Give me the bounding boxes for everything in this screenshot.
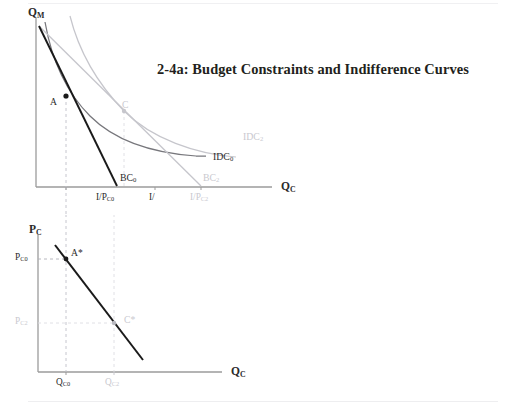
panel-b-x-axis-label-sub: C	[240, 370, 246, 379]
panel-a-xtick-label-0: I/PC0	[96, 193, 114, 203]
curve-idc2	[70, 16, 236, 157]
panel-b-y-axis-label: PC	[29, 224, 42, 237]
panel-a-y-axis-label-main: Q	[28, 6, 37, 18]
panel-b-ytick-label-0-sub: C0	[20, 255, 27, 262]
panel-a-point-a-label: A	[50, 97, 57, 107]
panel-a-xtick-label-0-sub: C0	[107, 195, 114, 202]
panel-a-point-c-label: C	[122, 100, 128, 110]
panel-a-y-axis-label-sub: M	[37, 11, 44, 20]
panel-b-xtick-label-2-main: Q	[105, 377, 112, 387]
curve-label-bc2: BC2	[203, 173, 219, 184]
curve-label-idc2-sub: 2	[260, 135, 263, 142]
panel-a-title: 2-4a: Budget Constraints and Indifferenc…	[157, 61, 469, 78]
chart-panel-demand: 2-4b: Demand for Chocolate PC QC PC0 PC2…	[0, 215, 515, 411]
panel-a-x-axis-label: QC	[281, 181, 296, 194]
curve-label-bc0: BC0	[120, 173, 136, 184]
curve-label-idc2-main: IDC	[243, 131, 260, 142]
panel-b-point-a-star-label: A*	[71, 248, 83, 258]
curve-label-idc2: IDC2	[243, 132, 263, 143]
panel-b-xtick-label-0: QC0	[56, 378, 70, 388]
panel-a-xtick-label-1: I/	[149, 193, 155, 202]
panel-a-plot	[0, 0, 515, 215]
curve-demand	[55, 245, 143, 360]
curve-label-idc0-main: IDC	[213, 151, 230, 162]
panel-a-xtick-label-2: I/PC2	[190, 193, 208, 203]
panel-a-y-axis-label: QM	[28, 7, 44, 20]
panel-b-y-axis-label-main: P	[29, 223, 36, 235]
panel-b-point-c-star-label: C*	[124, 315, 135, 325]
panel-a-x-axis-label-sub: C	[290, 185, 296, 194]
point-a-star-marker	[64, 257, 69, 262]
point-c-star-marker	[112, 321, 116, 325]
panel-b-y-axis-label-sub: C	[36, 228, 42, 237]
curve-label-bc2-main: BC	[203, 172, 216, 183]
panel-b-ytick-label-0: PC0	[15, 253, 28, 263]
curve-label-idc0-sub: 0	[230, 155, 233, 162]
point-a-marker	[63, 93, 68, 98]
panel-a-xtick-label-2-main: I/P	[190, 192, 201, 202]
panel-b-xtick-label-2-sub: C2	[112, 380, 119, 387]
curve-label-idc0: IDC0	[213, 152, 233, 163]
curve-label-bc2-sub: 2	[216, 176, 219, 183]
panel-b-x-axis-label-main: Q	[231, 365, 240, 377]
panel-a-xtick-label-2-sub: C2	[201, 195, 208, 202]
figure-page: 2-4a: Budget Constraints and Indifferenc…	[0, 0, 515, 411]
panel-b-plot	[0, 215, 515, 411]
panel-a-xtick-label-0-main: I/P	[96, 192, 107, 202]
curve-label-bc0-sub: 0	[133, 176, 136, 183]
line-bc2	[39, 26, 201, 186]
chart-panel-budget-constraints: 2-4a: Budget Constraints and Indifferenc…	[0, 0, 515, 215]
panel-b-xtick-label-2: QC2	[105, 378, 119, 388]
panel-b-xtick-label-0-sub: C0	[63, 380, 70, 387]
curve-label-bc0-main: BC	[120, 172, 133, 183]
panel-b-xtick-label-0-main: Q	[56, 377, 63, 387]
panel-b-ytick-label-2: PC2	[15, 317, 28, 327]
panel-a-x-axis-label-main: Q	[281, 180, 290, 192]
panel-b-x-axis-label: QC	[231, 366, 246, 379]
panel-b-ytick-label-2-sub: C2	[20, 319, 27, 326]
